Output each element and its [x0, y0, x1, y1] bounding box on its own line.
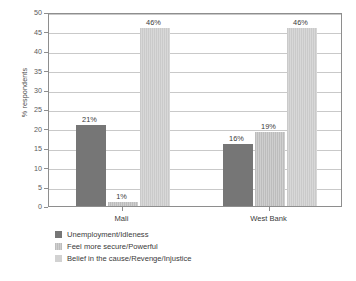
category-label: West Bank	[224, 215, 314, 223]
y-axis-tick-mark	[44, 207, 48, 208]
bar	[223, 144, 253, 206]
bar-value-label: 19%	[248, 123, 290, 130]
y-axis-tick-label: 15	[12, 145, 42, 152]
bar-value-label: 21%	[69, 116, 111, 123]
legend: Unemployment/IdlenessFeel more secure/Po…	[55, 229, 192, 265]
y-axis-tick-label: 0	[12, 203, 42, 210]
y-axis-tick-label: 35	[12, 68, 42, 75]
legend-label: Feel more secure/Powerful	[67, 243, 158, 251]
y-axis-tick-label: 20	[12, 126, 42, 133]
legend-label: Unemployment/Idleness	[67, 231, 148, 239]
legend-label: Belief in the cause/Revenge/Injustice	[67, 255, 192, 263]
y-axis-tick-label: 50	[12, 9, 42, 16]
bar-value-label: 46%	[133, 19, 175, 26]
plot-area	[48, 13, 342, 207]
bar-value-label: 1%	[101, 193, 143, 200]
bar-chart: % respondents 05101520253035404550 21%1%…	[0, 0, 356, 281]
bar	[108, 202, 138, 206]
gridline	[49, 14, 341, 15]
y-axis-tick-label: 10	[12, 165, 42, 172]
bar-value-label: 46%	[280, 19, 322, 26]
y-axis-tick-label: 45	[12, 29, 42, 36]
legend-item[interactable]: Unemployment/Idleness	[55, 229, 192, 240]
y-axis-tick-label: 25	[12, 106, 42, 113]
y-axis-tick-label: 40	[12, 48, 42, 55]
legend-item[interactable]: Belief in the cause/Revenge/Injustice	[55, 253, 192, 264]
legend-swatch-icon	[55, 243, 62, 250]
category-tick-mark	[122, 207, 123, 211]
y-axis-tick-label: 5	[12, 184, 42, 191]
bar-value-label: 16%	[216, 135, 258, 142]
bar	[255, 132, 285, 206]
y-axis-tick-label: 30	[12, 87, 42, 94]
category-tick-mark	[269, 207, 270, 211]
legend-swatch-icon	[55, 231, 62, 238]
legend-item[interactable]: Feel more secure/Powerful	[55, 241, 192, 252]
bar	[140, 28, 170, 206]
category-label: Mali	[77, 215, 167, 223]
bar	[287, 28, 317, 206]
legend-swatch-icon	[55, 255, 62, 262]
